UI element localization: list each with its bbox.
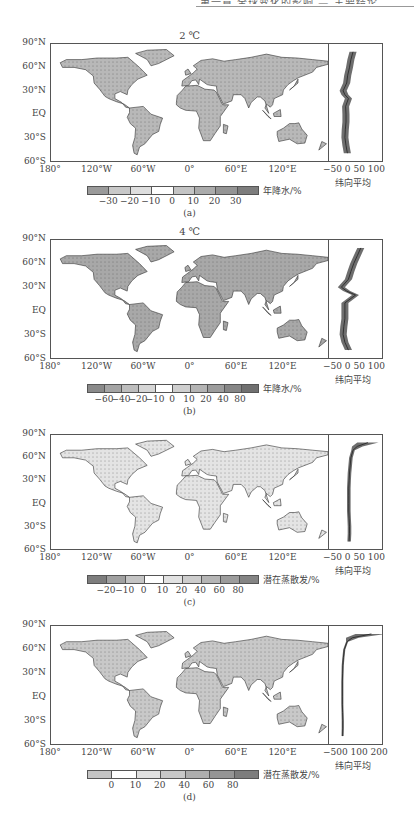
map-ytick-label: EQ [6, 691, 46, 701]
colorbar-tick-label: 80 [227, 780, 238, 790]
colorbar-tick-label: 40 [195, 585, 206, 595]
colorbar [87, 575, 259, 584]
colorbar-swatch [164, 576, 183, 583]
colorbar-swatch [221, 576, 240, 583]
map-xtick-label: 60°W [123, 164, 163, 174]
map-xtick-label: 0° [170, 552, 210, 562]
colorbar-swatch [88, 385, 105, 392]
colorbar-swatch [191, 385, 208, 392]
colorbar-tick-label: 40 [217, 394, 228, 404]
colorbar-ticks: −60−40−20−10010204080 [87, 394, 257, 406]
colorbar-tick-label: 20 [200, 394, 211, 404]
map-ytick-label: 90°N [6, 233, 46, 243]
colorbar-tick-label: 80 [232, 585, 243, 595]
map-ytick-label: 60°N [6, 61, 46, 71]
zonal-axis-label: 纬向平均 [335, 176, 371, 189]
map-ytick-label: 30°S [6, 521, 46, 531]
zonal-xtick-labels: −50 0 50 100 [323, 361, 385, 371]
colorbar-tick-label: 10 [183, 394, 194, 404]
zonal-xtick-labels: −500 100 200 [323, 747, 388, 757]
panel-caption: (b) [50, 406, 329, 416]
colorbar-swatch [238, 187, 258, 194]
map-xtick-label: 60°E [216, 361, 256, 371]
map-ytick-label: 90°N [6, 619, 46, 629]
map-ytick-label: 30°S [6, 132, 46, 142]
map-xtick-label: 60°E [216, 164, 256, 174]
panel-title: 4 ℃ [50, 226, 329, 237]
running-header: 第一章 全球变化的影响 — 主要结论 [200, 0, 414, 4]
colorbar [87, 384, 259, 393]
colorbar-tick-label: 10 [130, 780, 141, 790]
colorbar-tick-label: 10 [188, 196, 199, 206]
colorbar [87, 770, 259, 779]
colorbar-label: 年降水/% [263, 184, 302, 197]
colorbar-ticks: −20−1001020406080 [87, 585, 257, 597]
colorbar-label: 潜在蒸散发/% [263, 768, 320, 781]
map-xtick-label: 180° [30, 552, 70, 562]
panel-caption: (a) [50, 208, 329, 218]
colorbar-swatch [131, 187, 152, 194]
colorbar-swatch [122, 385, 139, 392]
map-xtick-label: 0° [170, 747, 210, 757]
map-xtick-label: 120°E [263, 747, 303, 757]
map-ytick-label: 30°N [6, 85, 46, 95]
map-xtick-label: 180° [30, 747, 70, 757]
map-ytick-label: 30°S [6, 329, 46, 339]
colorbar-tick-label: 20 [176, 585, 187, 595]
colorbar-tick-label: −30 [99, 196, 118, 206]
panel-caption: (c) [50, 597, 329, 607]
map-xtick-label: 0° [170, 361, 210, 371]
colorbar-swatch [225, 385, 242, 392]
zonal-axis-label: 纬向平均 [335, 564, 371, 577]
colorbar-tick-label: −20 [120, 196, 139, 206]
colorbar-tick-label: 0 [169, 196, 175, 206]
zonal-xtick-labels: −50 0 50 100 [323, 552, 385, 562]
zonal-axis-label: 纬向平均 [335, 759, 371, 772]
map-xtick-label: 120°W [77, 361, 117, 371]
colorbar-label: 年降水/% [263, 382, 302, 395]
colorbar-swatch [105, 385, 122, 392]
panel-caption: (d) [50, 792, 329, 802]
colorbar-tick-label: −10 [146, 394, 165, 404]
colorbar-swatch [88, 187, 109, 194]
colorbar-tick-label: −10 [115, 585, 134, 595]
colorbar-swatch [183, 576, 202, 583]
colorbar-tick-label: 10 [157, 585, 168, 595]
colorbar-swatch [139, 385, 156, 392]
colorbar-swatch [109, 187, 130, 194]
colorbar-swatch [152, 187, 173, 194]
colorbar-tick-label: 60 [213, 585, 224, 595]
map-ytick-label: EQ [6, 108, 46, 118]
colorbar-tick-label: 80 [234, 394, 245, 404]
colorbar-swatch [202, 576, 221, 583]
colorbar-swatch [137, 771, 161, 778]
colorbar-swatch [161, 771, 185, 778]
map-ytick-label: 60°N [6, 643, 46, 653]
colorbar-swatch [208, 385, 225, 392]
zonal-axis-label: 纬向平均 [335, 373, 371, 386]
map-xtick-label: 60°W [123, 552, 163, 562]
colorbar-swatch [210, 771, 234, 778]
colorbar-swatch [195, 187, 216, 194]
colorbar-swatch [240, 576, 258, 583]
colorbar-tick-label: 0 [108, 780, 114, 790]
colorbar [87, 186, 259, 195]
zonal-mean-plot [329, 625, 383, 745]
map-ytick-label: EQ [6, 498, 46, 508]
colorbar-swatch [126, 576, 145, 583]
world-map [50, 434, 329, 550]
map-ytick-label: 60°N [6, 451, 46, 461]
colorbar-swatch [88, 771, 112, 778]
colorbar-swatch [88, 576, 107, 583]
map-ytick-label: 30°N [6, 474, 46, 484]
world-map [50, 625, 329, 745]
colorbar-tick-label: −20 [96, 585, 115, 595]
colorbar-ticks: 01020406080 [87, 780, 257, 792]
zonal-mean-plot [329, 434, 383, 550]
map-ytick-label: EQ [6, 305, 46, 315]
map-ytick-label: 30°N [6, 667, 46, 677]
colorbar-tick-label: 40 [178, 780, 189, 790]
map-xtick-label: 120°W [77, 164, 117, 174]
map-xtick-label: 120°W [77, 747, 117, 757]
colorbar-swatch [156, 385, 173, 392]
